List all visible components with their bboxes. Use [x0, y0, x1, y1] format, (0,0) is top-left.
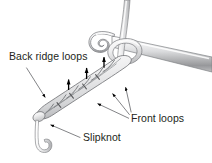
leader-lines	[26, 68, 131, 138]
leader-back-ridge-loops	[26, 68, 45, 98]
slipknot	[33, 112, 52, 153]
label-slipknot: Slipknot	[83, 131, 121, 143]
label-front-loops: Front loops	[131, 112, 184, 124]
crochet-chain-diagram: Back ridge loops Front loops Slipknot	[0, 0, 212, 163]
leader-front-loops-3	[126, 87, 132, 112]
diagram-canvas: Back ridge loops Front loops Slipknot	[0, 0, 212, 163]
slipknot-body	[33, 112, 45, 122]
leader-slipknot	[51, 125, 81, 138]
yarn-tail-highlight	[37, 123, 38, 143]
leader-front-loops-1	[98, 104, 129, 119]
chain-stitches	[37, 55, 132, 119]
label-back-ridge-loops: Back ridge loops	[9, 50, 87, 62]
